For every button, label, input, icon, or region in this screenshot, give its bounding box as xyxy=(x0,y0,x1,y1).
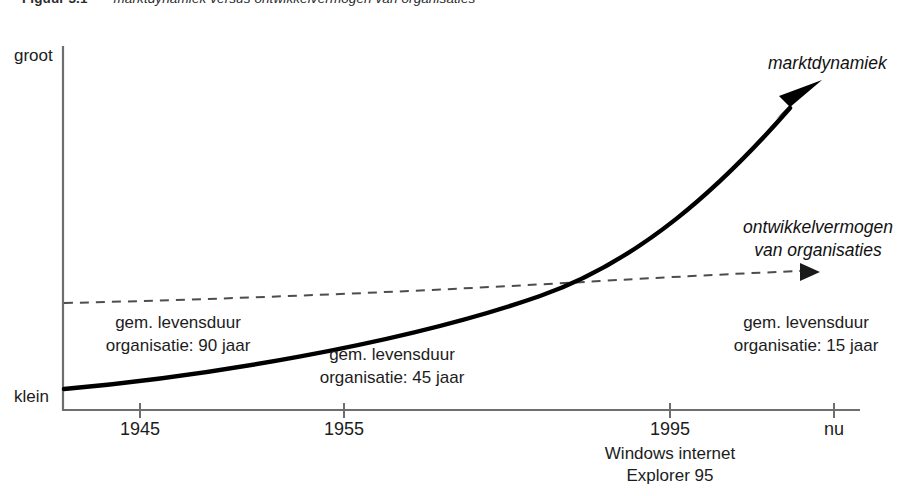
x-tick-label-1955: 1955 xyxy=(324,419,364,440)
x-tick-label-1995: 1995 xyxy=(650,419,690,440)
series-label-marktdynamiek: marktdynamiek xyxy=(768,52,887,75)
x-tick-label-nu: nu xyxy=(824,419,844,440)
x-tick-sublabel-1995: Windows internet Explorer 95 xyxy=(605,443,735,487)
series-ontwikkelvermogen-arrowhead xyxy=(800,263,820,281)
annotation-levensduur-15-line2: organisatie: 15 jaar xyxy=(734,334,879,357)
annotation-levensduur-45: gem. levensduur organisatie: 45 jaar xyxy=(320,343,465,390)
annotation-levensduur-15: gem. levensduur organisatie: 15 jaar xyxy=(734,311,879,358)
annotation-levensduur-15-line1: gem. levensduur xyxy=(734,311,879,334)
annotation-levensduur-90: gem. levensduur organisatie: 90 jaar xyxy=(106,311,251,358)
series-ontwikkelvermogen-line xyxy=(64,271,800,303)
series-label-ontwikkelvermogen-line1: ontwikkelvermogen xyxy=(743,216,893,239)
annotation-levensduur-90-line1: gem. levensduur xyxy=(106,311,251,334)
x-tick-sublabel-line1: Windows internet xyxy=(605,443,735,465)
annotation-levensduur-45-line1: gem. levensduur xyxy=(320,343,465,366)
x-tick-sublabel-line2: Explorer 95 xyxy=(605,465,735,487)
figure-container: Figuur 3.1marktdynamiek versus ontwikkel… xyxy=(0,0,911,496)
y-axis-label-bottom: klein xyxy=(14,387,49,407)
series-label-ontwikkelvermogen-line2: van organisaties xyxy=(743,239,893,262)
x-tick-label-1945: 1945 xyxy=(120,419,160,440)
y-axis-label-top: groot xyxy=(14,46,53,66)
annotation-levensduur-90-line2: organisatie: 90 jaar xyxy=(106,334,251,357)
annotation-levensduur-45-line2: organisatie: 45 jaar xyxy=(320,366,465,389)
series-label-ontwikkelvermogen: ontwikkelvermogen van organisaties xyxy=(743,216,893,262)
